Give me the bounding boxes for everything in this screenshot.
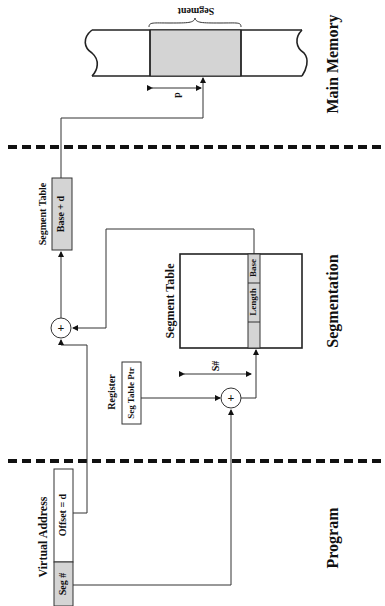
register-label: Register	[106, 374, 117, 410]
main-memory-strip	[85, 18, 307, 76]
adder-offset-plus-icon: +	[58, 321, 65, 335]
segment-brace	[149, 18, 241, 27]
virtual-address-label: Virtual Address	[36, 496, 50, 577]
memory-segment-label: Segment	[177, 6, 214, 17]
result-value: Base + d	[55, 195, 66, 232]
region-label-program: Program	[324, 507, 342, 569]
region-label-segmentation: Segmentation	[324, 254, 342, 347]
result-label: Segment Table	[37, 182, 48, 245]
memory-segment-block	[150, 30, 241, 76]
s-number-label: S#	[210, 361, 221, 372]
segmentation-diagram: Segment d Main Memory Base + d Segment T…	[0, 0, 385, 606]
entry-base-label: Base	[248, 259, 258, 277]
region-label-main-memory: Main Memory	[324, 14, 342, 113]
adder-table-pointer-plus-icon: +	[228, 391, 235, 405]
segment-table-label: Segment Table	[163, 263, 177, 339]
segment-table	[180, 254, 302, 348]
connector-seg-to-adder	[73, 410, 231, 585]
seg-field-label: Seg #	[57, 573, 68, 596]
offset-d-label: d	[173, 92, 184, 98]
entry-length-label: Length	[248, 288, 258, 316]
offset-field-label: Offset = d	[57, 493, 68, 536]
register-value: Seg Table Ptr	[126, 367, 136, 419]
